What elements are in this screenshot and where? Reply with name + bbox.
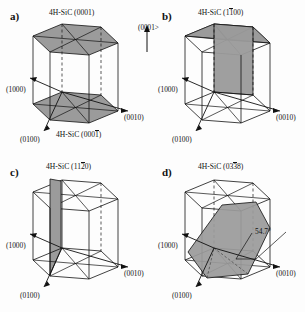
panel-a-letter: a) — [10, 10, 19, 22]
panel-d-plane-label: 4H-SiC (0338) — [198, 163, 243, 171]
panel-a-top-plane-label: 4H-SiC (0001) — [49, 9, 94, 17]
panel-c-plane-prefix: 4H-SiC (11 — [46, 162, 81, 171]
panel-b-axis-a1-label: (1000) — [158, 86, 178, 93]
panel-a-axis-a3-label: (0100) — [20, 136, 40, 143]
panel-d-drawing — [152, 156, 304, 312]
panel-d-plane-overbar: 3 — [233, 163, 237, 171]
panel-b-axis-a3-label: (0100) — [172, 136, 192, 143]
panel-c-plane-suffix: 0) — [85, 162, 91, 171]
panel-d-axis-a1-label: (1000) — [158, 242, 178, 249]
panel-a-bottom-plane-label: 4H-SiC (0001) — [56, 131, 101, 139]
panel-b-plane-suffix: 00) — [233, 8, 243, 17]
panel-b-drawing — [152, 0, 304, 156]
panel-d-plane-prefix: 4H-SiC (03 — [198, 162, 233, 171]
panel-b-letter: b) — [162, 10, 172, 22]
panel-c-axis-a1-label: (1000) — [6, 242, 26, 249]
a-plane — [50, 179, 61, 275]
panel-a: a) 4H-SiC (0001) 4H-SiC (0001) (1000) (0… — [0, 0, 152, 156]
panel-a-axis-a1-label: (1000) — [6, 86, 26, 93]
panel-c-axis-a2-label: (0010) — [124, 270, 144, 277]
panel-d-axis-a2-label: (0010) — [276, 270, 296, 277]
top-hex-diagonals — [33, 180, 118, 211]
panel-b: b) 4H-SiC (1100) (0001> (1000) (0010) (0… — [152, 0, 304, 156]
panel-b-plane-prefix: 4H-SiC (1 — [198, 8, 229, 17]
semipolar-plane — [188, 202, 270, 278]
panel-a-bottom-plane-prefix: 4H-SiC (000 — [56, 130, 95, 139]
panel-d-letter: d) — [162, 166, 172, 178]
panel-c: c) 4H-SiC (1120) (1000) (0010) (0100) — [0, 156, 152, 312]
panel-c-letter: c) — [10, 166, 19, 178]
panel-d: d) 4H-SiC (0338) 54.7° (1000) (0010) (01… — [152, 156, 304, 312]
panel-d-angle-label: 54.7° — [255, 227, 271, 236]
panel-b-plane-label: 4H-SiC (1100) — [198, 9, 243, 17]
panel-a-bottom-plane-overbar: 1 — [95, 131, 99, 139]
panel-c-plane-label: 4H-SiC (1120) — [46, 163, 91, 171]
panel-c-plane-overbar: 2 — [81, 163, 85, 171]
panel-a-axis-a2-label: (0010) — [124, 114, 144, 121]
panel-a-bottom-plane-suffix: ) — [99, 130, 102, 139]
panel-d-plane-suffix: 8) — [237, 162, 243, 171]
panel-b-plane-overbar: 1 — [229, 9, 233, 17]
m-plane — [214, 24, 253, 95]
figure-root: a) 4H-SiC (0001) 4H-SiC (0001) (1000) (0… — [0, 0, 305, 312]
prism-vertical-edges — [33, 180, 118, 279]
bottom-hex-diagonals — [33, 248, 118, 279]
panel-b-axis-a2-label: (0010) — [276, 114, 296, 121]
axis-arrows — [30, 233, 128, 287]
panel-c-drawing — [0, 156, 152, 312]
panel-d-axis-a3-label: (0100) — [172, 292, 192, 299]
bottom-hex-diagonals — [185, 92, 270, 123]
panel-b-caxis-label: (0001> — [138, 24, 159, 32]
panel-c-axis-a3-label: (0100) — [20, 292, 40, 299]
